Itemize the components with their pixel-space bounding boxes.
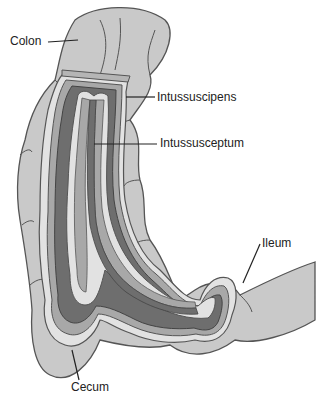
label-colon: Colon: [10, 34, 41, 48]
intussusception-diagram: [0, 0, 329, 401]
ileum-leader: [243, 244, 260, 283]
label-intussusceptum: Intussusceptum: [160, 136, 244, 150]
label-intussuscipens: Intussuscipens: [157, 90, 236, 104]
label-ileum: Ileum: [262, 236, 291, 250]
label-cecum: Cecum: [71, 380, 109, 394]
